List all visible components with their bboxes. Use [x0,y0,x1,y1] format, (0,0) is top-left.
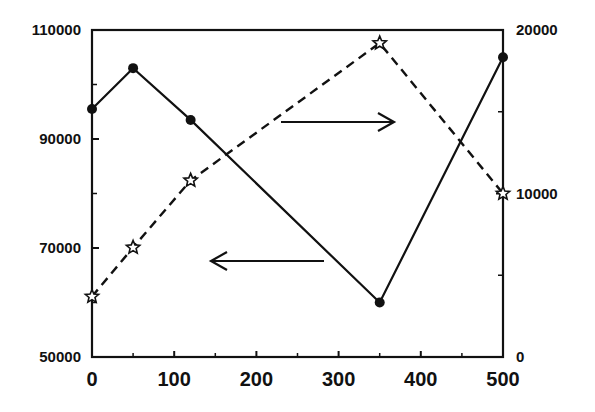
data-point-circle [87,104,97,114]
y-tick-label: 110000 [32,21,81,38]
left-y-axis: 500007000090000110000 [32,21,99,365]
data-point-circle [186,115,196,125]
data-series [85,36,509,307]
x-tick-label: 200 [240,368,273,390]
x-tick-label: 500 [486,368,519,390]
y-tick-label: 70000 [39,239,81,256]
x-tick-label: 400 [404,368,437,390]
axis-arrows [211,113,394,270]
x-tick-label: 300 [322,368,355,390]
plot-border [92,30,503,357]
series-line [92,43,503,296]
series-solid-circles [87,52,508,307]
plot-frame [92,30,503,357]
data-point-star [126,240,139,253]
x-tick-label: 100 [158,368,191,390]
data-point-star [184,173,197,186]
y-tick-label: 50000 [39,348,81,365]
y2-tick-label: 10000 [516,185,558,202]
y-tick-label: 90000 [39,130,81,147]
y2-tick-label: 20000 [516,21,558,38]
y2-tick-label: 0 [516,348,524,365]
dual-axis-line-chart: 0100200300400500 500007000090000110000 0… [0,0,595,412]
data-point-circle [498,52,508,62]
x-tick-label: 0 [86,368,97,390]
data-point-circle [128,63,138,73]
data-point-circle [375,298,385,308]
series-line [92,57,503,302]
